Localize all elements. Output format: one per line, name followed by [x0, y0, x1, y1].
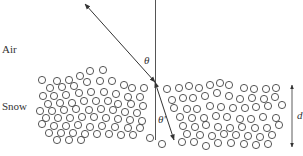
snow-grain	[213, 89, 220, 96]
snow-grain	[136, 124, 143, 131]
snow-grain	[260, 95, 267, 102]
snow-grain	[158, 140, 165, 147]
snow-grain	[62, 122, 69, 129]
snow-grain	[57, 129, 64, 136]
snow-grain	[70, 82, 77, 89]
snow-grain	[38, 120, 45, 127]
snow-grain	[58, 83, 65, 90]
snow-grain	[111, 123, 118, 130]
snow-grain	[75, 89, 82, 96]
snow-grain	[248, 94, 255, 101]
snow-grain	[139, 102, 146, 109]
snow-grain	[86, 67, 93, 74]
snow-grain	[240, 140, 247, 147]
snow-grain	[146, 134, 153, 141]
snow-grain	[66, 114, 73, 121]
snow-grain	[36, 107, 43, 114]
snow-grain	[126, 116, 133, 123]
snow-grain	[62, 91, 69, 98]
snow-grain	[53, 136, 60, 143]
snow-grain	[74, 121, 81, 128]
snow-grain	[193, 105, 200, 112]
snow-grain	[232, 131, 239, 138]
snow-grain	[96, 77, 103, 84]
theta-label: θ	[144, 54, 149, 66]
snow-grain	[241, 104, 248, 111]
snow-grain	[76, 72, 83, 79]
snow-grain	[124, 124, 131, 131]
snow-grain	[236, 115, 243, 122]
incident-ray-arrow	[85, 4, 155, 82]
snow-grain	[250, 85, 257, 92]
snow-grain	[77, 136, 84, 143]
snow-grain	[80, 97, 87, 104]
snow-grain	[65, 76, 72, 83]
snow-grain	[129, 131, 136, 138]
snow-grain	[108, 77, 115, 84]
snow-grain	[191, 123, 198, 130]
snow-grain	[98, 122, 105, 129]
snow-grain	[202, 142, 209, 149]
snow-grain	[60, 106, 67, 113]
snow-grain	[128, 84, 135, 91]
snow-grain	[140, 84, 147, 91]
snow-grain	[190, 138, 197, 145]
snow-grain	[176, 113, 183, 120]
snow-grain	[240, 84, 247, 91]
snow-grain	[247, 115, 254, 122]
snow-grain	[92, 97, 99, 104]
snow-grain	[136, 93, 143, 100]
snow-grain	[179, 94, 186, 101]
snow-grain	[39, 92, 46, 99]
snow-grain	[93, 130, 100, 137]
snow-grain	[188, 114, 195, 121]
snow-grain	[225, 81, 232, 88]
snow-grain	[109, 106, 116, 113]
snow-grain	[227, 139, 234, 146]
snow-grain	[114, 115, 121, 122]
snow-grain	[83, 78, 90, 85]
snow-grain	[112, 90, 119, 97]
snow-grain	[264, 140, 271, 147]
snow-grain	[54, 114, 61, 121]
snow-label: Snow	[2, 100, 27, 112]
snow-grain	[272, 114, 279, 121]
snow-grain	[105, 130, 112, 137]
snow-grain	[121, 108, 128, 115]
snow-grain	[38, 76, 45, 83]
snow-grain	[214, 139, 221, 146]
snow-grain	[264, 102, 271, 109]
snow-grain	[278, 101, 285, 108]
snow-grain	[114, 100, 121, 107]
snow-grain	[100, 88, 107, 95]
snow-grain	[44, 100, 51, 107]
snow-grain	[48, 107, 55, 114]
snow-grain	[179, 122, 186, 129]
snow-grain	[206, 102, 213, 109]
snow-grain	[212, 112, 219, 119]
snow-grain	[90, 113, 97, 120]
snow-grain	[78, 113, 85, 120]
snow-grain	[263, 124, 270, 131]
snow-grain	[216, 79, 223, 86]
snow-grain	[244, 132, 251, 139]
air-label: Air	[2, 43, 17, 55]
snow-grain	[99, 66, 106, 73]
snow-grain	[223, 113, 230, 120]
snow-grain	[251, 124, 258, 131]
snow-grain	[65, 136, 72, 143]
snow-grain	[183, 130, 190, 137]
snow-grain	[46, 84, 53, 91]
snow-grain	[163, 85, 170, 92]
snow-grain	[97, 105, 104, 112]
snow-grain	[138, 117, 145, 124]
snow-grain	[238, 123, 245, 130]
depth-label: d	[297, 109, 303, 121]
snow-grain	[50, 92, 57, 99]
snow-grain	[196, 131, 203, 138]
snow-grain	[189, 94, 196, 101]
snow-grain	[120, 81, 127, 88]
snow-grain	[208, 132, 215, 139]
refracted-ray-arrow	[155, 82, 174, 140]
snow-grain	[256, 133, 263, 140]
